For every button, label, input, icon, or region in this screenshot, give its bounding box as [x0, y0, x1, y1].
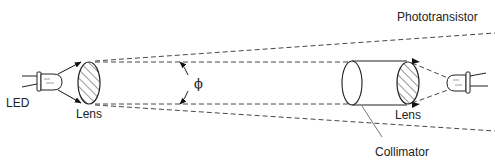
beam-upper-diverging: [95, 33, 495, 61]
lens-right-icon: [397, 58, 420, 108]
lens-right-label: Lens: [395, 108, 421, 122]
phototransistor-icon: [447, 72, 488, 93]
phototransistor-label: Phototransistor: [397, 10, 478, 24]
collimator-leader: [362, 106, 382, 137]
led-label: LED: [6, 96, 30, 110]
collimator-label: Collimator: [375, 145, 429, 159]
angle-phi-label: ϕ: [194, 76, 203, 91]
beam-lines: [95, 33, 495, 131]
lens-left-label: Lens: [76, 107, 102, 121]
led-icon: [22, 72, 62, 91]
optical-diagram: LED Lens ϕ Lens Phototransistor Collimat…: [0, 0, 495, 166]
lens-left-icon: [78, 62, 100, 104]
beam-lower-diverging: [95, 105, 495, 131]
angle-arc: [180, 62, 188, 104]
